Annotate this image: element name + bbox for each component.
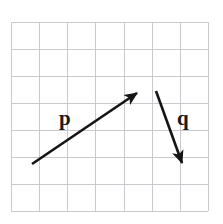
vector-grid-figure: p q xyxy=(0,0,223,224)
vector-p-label: p xyxy=(59,108,71,129)
vector-q-label: q xyxy=(177,108,189,129)
diagram-canvas xyxy=(0,0,223,224)
